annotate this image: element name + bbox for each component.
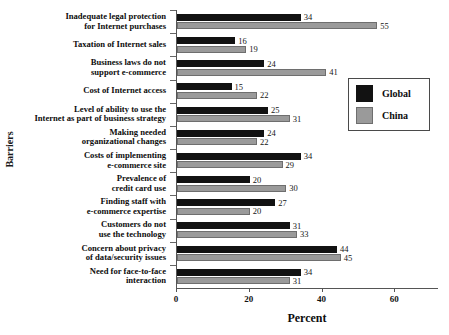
legend-entry-china: China (356, 107, 408, 124)
category-label-line: support e-commerce (91, 68, 166, 78)
bar-china (177, 46, 246, 53)
bar-value-label: 45 (344, 253, 353, 263)
category-label: Prevalence ofcredit card use (14, 172, 166, 195)
bar-value-label: 55 (380, 21, 389, 31)
bar-value-label: 22 (260, 137, 269, 147)
x-tick (322, 288, 323, 292)
bar-global (177, 269, 301, 276)
bar-global (177, 199, 275, 206)
category-label-column: Inadequate legal protectionfor Internet … (18, 10, 170, 288)
bar-value-label: 19 (249, 44, 258, 54)
bar-china (177, 161, 283, 168)
bar-china (177, 69, 326, 76)
category-tick (170, 195, 176, 196)
category-label-line: e-commerce site (107, 161, 166, 171)
bar-global (177, 130, 264, 137)
plot-area: Percent 02040603455161924411522253124223… (176, 10, 438, 288)
bar-chart: Barriers Inadequate legal protectionfor … (0, 0, 449, 335)
bar-global (177, 246, 337, 253)
x-tick-label: 20 (244, 294, 253, 304)
category-label: Making neededorganizational changes (14, 126, 166, 149)
x-tick-label: 0 (174, 294, 179, 304)
category-tick (170, 265, 176, 266)
category-label: Level of ability to use theInternet as p… (14, 103, 166, 126)
bar-value-label: 20 (253, 175, 262, 185)
legend-label-china: China (382, 110, 408, 121)
category-label-line: e-commerce expertise (87, 207, 166, 217)
category-label-line: Taxation of Internet sales (73, 40, 166, 50)
category-tick (170, 149, 176, 150)
bar-global (177, 153, 301, 160)
bar-value-label: 25 (271, 105, 280, 115)
bar-global (177, 83, 232, 90)
bar-china (177, 115, 290, 122)
category-label: Taxation of Internet sales (14, 33, 166, 56)
category-label: Need for face-to-faceinteraction (14, 265, 166, 288)
category-tick (170, 80, 176, 81)
bar-global (177, 60, 264, 67)
bar-value-label: 16 (238, 36, 247, 46)
category-label-line: for Internet purchases (84, 22, 166, 32)
bar-global (177, 222, 290, 229)
y-axis-title: Barriers (4, 115, 15, 185)
category-tick (170, 33, 176, 34)
legend-swatch-global-icon (356, 85, 373, 102)
bar-value-label: 15 (235, 82, 244, 92)
bar-global (177, 176, 250, 183)
category-label-line: Internet as part of business strategy (34, 114, 166, 124)
bar-value-label: 33 (300, 229, 309, 239)
bar-global (177, 14, 301, 21)
x-tick (394, 288, 395, 292)
category-tick (170, 172, 176, 173)
bar-china (177, 254, 341, 261)
category-label: Concern about privacyof data/security is… (14, 242, 166, 265)
bar-global (177, 37, 235, 44)
bar-value-label: 20 (253, 206, 262, 216)
bar-global (177, 107, 268, 114)
bar-china (177, 185, 286, 192)
bar-value-label: 29 (286, 160, 295, 170)
category-label-line: credit card use (112, 184, 166, 194)
legend-swatch-china-icon (356, 107, 373, 124)
x-axis-line (176, 288, 438, 289)
bar-china (177, 231, 297, 238)
bar-value-label: 31 (293, 276, 302, 286)
bar-china (177, 92, 257, 99)
bar-value-label: 34 (304, 151, 313, 161)
bar-value-label: 24 (267, 128, 276, 138)
bar-china (177, 22, 377, 29)
bar-value-label: 24 (267, 59, 276, 69)
category-tick (170, 126, 176, 127)
bar-value-label: 30 (289, 183, 298, 193)
bar-value-label: 27 (278, 198, 287, 208)
category-label: Costs of implementinge-commerce site (14, 149, 166, 172)
bar-value-label: 41 (329, 67, 338, 77)
category-label: Finding staff withe-commerce expertise (14, 195, 166, 218)
bar-value-label: 34 (304, 12, 313, 22)
bar-china (177, 208, 250, 215)
category-label-line: use the technology (99, 230, 166, 240)
category-tick (170, 103, 176, 104)
x-tick (249, 288, 250, 292)
category-tick (170, 219, 176, 220)
category-label: Cost of Internet access (14, 80, 166, 103)
legend-label-global: Global (382, 88, 411, 99)
bar-china (177, 138, 257, 145)
x-tick (176, 288, 177, 292)
category-label: Inadequate legal protectionfor Internet … (14, 10, 166, 33)
legend-entry-global: Global (356, 85, 411, 102)
x-tick-label: 40 (317, 294, 326, 304)
category-label: Customers do notuse the technology (14, 219, 166, 242)
category-label-line: of data/security issues (86, 253, 166, 263)
legend: Global China (348, 78, 430, 131)
bar-china (177, 277, 290, 284)
category-label-line: Cost of Internet access (83, 86, 166, 96)
category-label-line: organizational changes (82, 137, 166, 147)
bar-value-label: 31 (293, 114, 302, 124)
category-label: Business laws do notsupport e-commerce (14, 56, 166, 79)
x-tick-label: 60 (390, 294, 399, 304)
bar-value-label: 22 (260, 90, 269, 100)
category-tick (170, 10, 176, 11)
x-axis-title: Percent (176, 311, 438, 326)
category-tick (170, 242, 176, 243)
